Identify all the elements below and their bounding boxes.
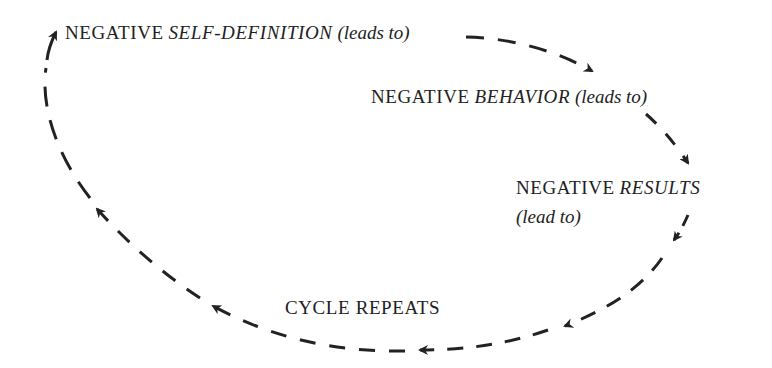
node-suffix: (leads to) — [337, 22, 409, 43]
arrow-behavior-to-results — [646, 114, 688, 163]
node-self-definition: NEGATIVE SELF-DEFINITION (leads to) — [65, 23, 410, 42]
arrow-results-to-curve — [674, 215, 688, 240]
node-behavior: NEGATIVE BEHAVIOR (leads to) — [371, 87, 647, 106]
node-suffix: (lead to) — [516, 206, 581, 227]
arrow-results-descent — [565, 258, 662, 326]
node-results: NEGATIVE RESULTS — [516, 178, 700, 197]
negative-cycle-diagram: NEGATIVE SELF-DEFINITION (leads to) NEGA… — [0, 0, 772, 368]
node-cycle-repeats: CYCLE REPEATS — [285, 298, 440, 317]
arrow-bottom-curve — [420, 330, 548, 350]
node-prefix: NEGATIVE — [371, 86, 470, 107]
node-prefix: NEGATIVE — [516, 177, 615, 198]
node-emphasis: RESULTS — [619, 177, 700, 198]
node-results-suffix: (lead to) — [516, 207, 581, 226]
node-label: CYCLE REPEATS — [285, 297, 440, 318]
node-emphasis: BEHAVIOR — [474, 86, 570, 107]
arrow-left-ascent — [97, 209, 200, 298]
arrow-head-self-definition — [47, 32, 56, 60]
node-suffix: (leads to) — [575, 86, 647, 107]
node-prefix: NEGATIVE — [65, 22, 164, 43]
arrow-to-self-definition — [45, 68, 90, 198]
arrow-self-definition-to-behavior — [466, 37, 592, 71]
node-emphasis: SELF-DEFINITION — [168, 22, 332, 43]
